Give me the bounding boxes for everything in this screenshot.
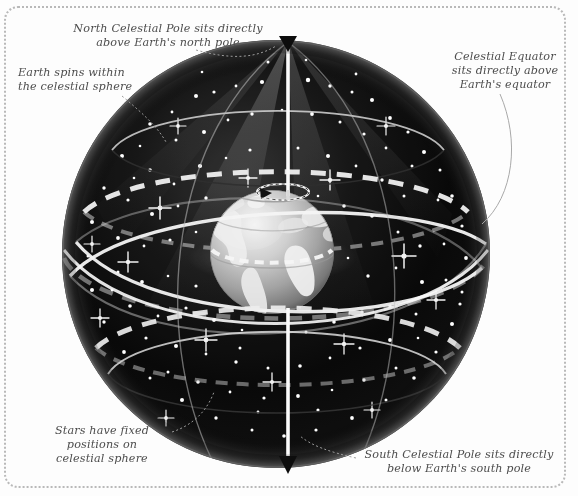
leader-celestial-equator [482,94,512,224]
celestial-sphere [62,40,490,468]
label-earth-spins: Earth spins within the celestial sphere [18,66,168,94]
label-north-celestial-pole: North Celestial Pole sits directly above… [48,22,288,50]
label-south-celestial-pole: South Celestial Pole sits directly below… [348,448,570,476]
label-fixed-stars: Stars have fixed positions on celestial … [22,424,182,466]
label-celestial-equator: Celestial Equator sits directly above Ea… [440,50,570,92]
diagram-canvas: North Celestial Pole sits directly above… [0,0,578,496]
